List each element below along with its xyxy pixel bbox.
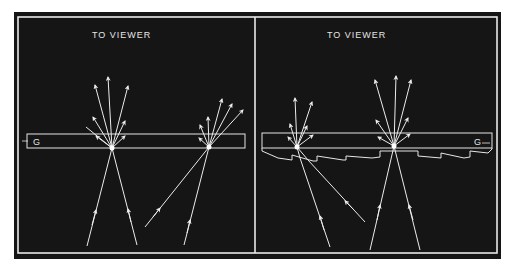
left-scatter-spot-2 — [207, 145, 212, 150]
right-panel-title: TO VIEWER — [327, 30, 386, 40]
right-scatter-spot-2 — [392, 144, 397, 149]
left-scatter-spot-1 — [110, 146, 115, 151]
plate-background — [14, 12, 501, 259]
right-glass-label: G — [474, 137, 481, 147]
light-scattering-diagram: TO VIEWER G — [0, 0, 511, 272]
right-scatter-spot-1 — [295, 145, 300, 150]
left-panel-title: TO VIEWER — [92, 30, 151, 40]
left-glass-label: G — [33, 137, 40, 147]
